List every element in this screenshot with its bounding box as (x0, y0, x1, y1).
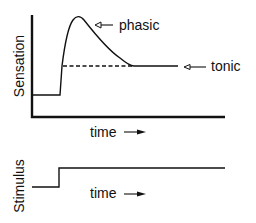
sensation-panel: Sensation phasic tonic time (11, 15, 241, 140)
phasic-pointer (95, 22, 113, 28)
stimulus-time-arrow-icon (124, 192, 146, 197)
tonic-label: tonic (211, 58, 241, 74)
stimulus-axis-label: Stimulus (11, 159, 27, 213)
tonic-pointer (184, 65, 206, 70)
stimulus-step-trace (32, 168, 225, 187)
phasic-tonic-diagram: Sensation phasic tonic time Stimulus tim… (0, 0, 256, 223)
stimulus-time-label: time (90, 185, 117, 201)
phasic-label: phasic (119, 17, 159, 33)
sensation-time-label: time (90, 124, 117, 140)
sensation-time-arrow-icon (124, 130, 146, 135)
sensation-axis-label: Sensation (11, 35, 27, 97)
stimulus-panel: Stimulus time (11, 159, 225, 213)
